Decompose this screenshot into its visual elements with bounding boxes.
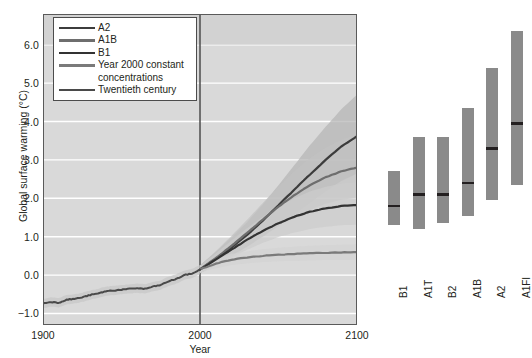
legend-item[interactable]: A2 [58, 22, 191, 34]
bar-category-label: A1T [423, 280, 434, 298]
legend-line-swatch [58, 47, 98, 59]
x-tick-label: 2100 [345, 329, 368, 341]
legend-line-swatch [58, 84, 98, 96]
best-estimate-marker [486, 147, 498, 149]
best-estimate-marker [437, 193, 449, 195]
range-bar [462, 108, 474, 216]
legend-line-swatch [58, 34, 98, 46]
legend-item[interactable]: B1 [58, 47, 191, 59]
range-bar [413, 137, 425, 229]
range-bar [511, 31, 523, 185]
best-estimate-marker [413, 193, 425, 195]
bar-category-label: A1B [472, 279, 483, 298]
chart-legend: A2A1BB1Year 2000 constantconcentrationsT… [53, 17, 197, 101]
range-bar [388, 171, 400, 225]
legend-line-swatch [58, 59, 98, 71]
y-axis-label: Global surface warming (°C) [17, 86, 29, 226]
legend-label: A2 [98, 22, 110, 34]
x-axis-label: Year [189, 343, 210, 355]
best-estimate-marker [511, 122, 523, 124]
y-tick-label: −1.0 [18, 307, 39, 319]
legend-item[interactable]: A1B [58, 34, 191, 46]
y-tick-label: 0.0 [24, 269, 39, 281]
legend-label: B1 [98, 47, 110, 59]
y-tick-label: 6.0 [24, 39, 39, 51]
best-estimate-marker [388, 205, 400, 207]
bar-category-label: A1FI [521, 277, 532, 298]
legend-line-swatch [58, 22, 98, 34]
legend-label: A1B [98, 34, 117, 46]
bar-category-label: B2 [447, 286, 458, 298]
x-tick-label: 1900 [31, 329, 54, 341]
legend-item[interactable]: Twentieth century [58, 84, 191, 96]
legend-item[interactable]: Year 2000 constant [58, 59, 191, 71]
y-tick-label: 1.0 [24, 231, 39, 243]
bar-range-panel: B1A1TB2A1BA2A1FI [370, 0, 529, 358]
legend-label: Twentieth century [98, 84, 176, 96]
best-estimate-marker [462, 182, 474, 184]
legend-label-continuation: concentrations [58, 72, 191, 84]
bar-category-label: B1 [398, 286, 409, 298]
bar-category-label: A2 [496, 286, 507, 298]
legend-label: Year 2000 constant [98, 59, 184, 71]
range-bar [486, 68, 498, 200]
x-tick-label: 2000 [188, 329, 211, 341]
range-bar [437, 137, 449, 223]
